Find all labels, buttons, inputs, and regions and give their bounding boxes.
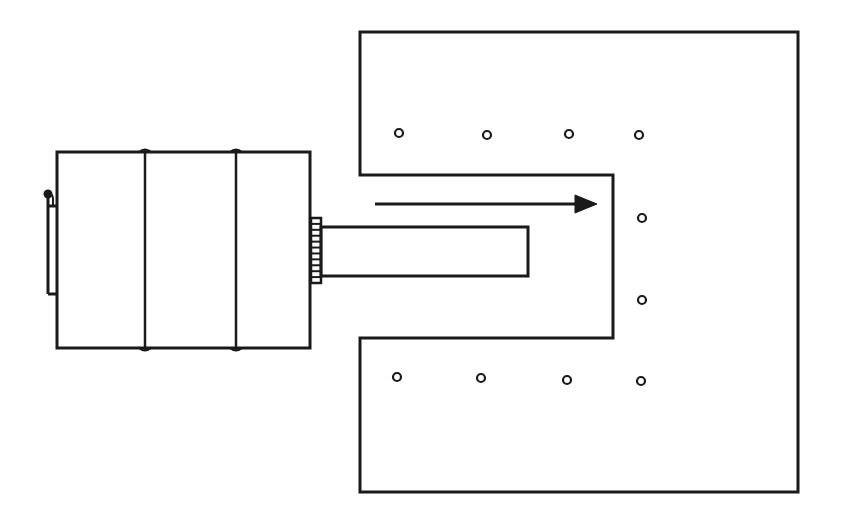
hole-icon: [565, 130, 573, 138]
hole-icon: [483, 131, 491, 139]
c-shaped-chamber: [360, 32, 798, 492]
hole-icon: [635, 131, 643, 139]
hole-icon: [638, 214, 646, 222]
hole-icon: [395, 129, 403, 137]
chamber-outline: [360, 32, 798, 492]
holes: [393, 129, 646, 385]
hole-icon: [638, 296, 646, 304]
drum: [57, 150, 310, 351]
arrow-right-icon: [375, 195, 597, 213]
crank-handle-icon: [45, 191, 57, 294]
hole-icon: [393, 373, 401, 381]
hole-icon: [637, 377, 645, 385]
diagram-canvas: [0, 0, 844, 526]
arrow-head: [575, 195, 597, 213]
shaft: [321, 227, 528, 276]
drum-body: [57, 152, 310, 348]
hole-icon: [563, 376, 571, 384]
shaft-body: [321, 227, 528, 276]
hole-icon: [477, 374, 485, 382]
